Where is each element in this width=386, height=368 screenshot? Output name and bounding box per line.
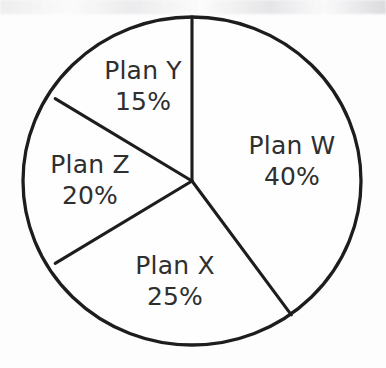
pie-chart-svg	[0, 0, 386, 368]
pie-chart: Plan W 40% Plan X 25% Plan Z 20% Plan Y …	[0, 0, 386, 368]
